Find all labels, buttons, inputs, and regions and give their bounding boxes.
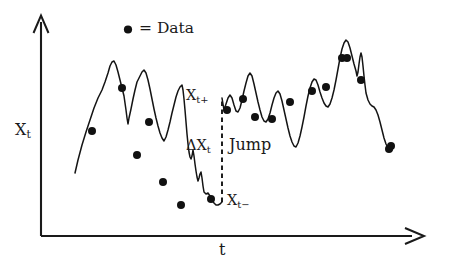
data-point-marker xyxy=(387,142,395,150)
y-axis-label-sub: t xyxy=(26,128,30,141)
legend-label: = Data xyxy=(139,21,194,37)
data-point-marker xyxy=(286,98,294,106)
data-point-markers xyxy=(88,54,395,209)
xt-minus-base: X xyxy=(227,192,237,208)
data-point-marker xyxy=(145,118,153,126)
data-point-marker xyxy=(343,54,351,62)
data-point-marker xyxy=(207,195,215,203)
x-axis-label: t xyxy=(219,242,225,258)
data-point-marker xyxy=(322,83,330,91)
delta-xt-base: ΔX xyxy=(186,137,207,153)
data-point-marker xyxy=(133,151,141,159)
delta-xt-label: ΔXt xyxy=(186,138,211,153)
xt-minus-sub: t− xyxy=(237,199,249,210)
figure-canvas xyxy=(0,0,449,266)
data-point-marker xyxy=(177,201,185,209)
sample-path-before-jump xyxy=(75,61,222,205)
y-axis-label-base: X xyxy=(15,120,26,139)
data-point-marker xyxy=(159,178,167,186)
xt-plus-sub: t+ xyxy=(196,94,208,105)
jump-diffusion-figure: = Data Xt t Xt+ Xt− ΔXt Jump xyxy=(0,0,449,266)
xt-plus-label: Xt+ xyxy=(186,88,209,103)
data-point-marker xyxy=(251,113,259,121)
xt-plus-base: X xyxy=(186,87,196,103)
sample-path-after-jump xyxy=(222,40,392,150)
jump-label: Jump xyxy=(229,137,271,153)
data-point-marker xyxy=(88,127,96,135)
filled-circle-marker-icon xyxy=(124,25,132,33)
data-point-marker xyxy=(268,115,276,123)
delta-xt-sub: t xyxy=(207,144,211,155)
data-point-marker xyxy=(239,95,247,103)
data-point-marker xyxy=(223,106,231,114)
data-point-marker xyxy=(118,84,126,92)
data-point-marker xyxy=(357,76,365,84)
y-axis-label: Xt xyxy=(15,122,31,138)
data-point-marker xyxy=(308,87,316,95)
xt-minus-label: Xt− xyxy=(227,193,250,208)
